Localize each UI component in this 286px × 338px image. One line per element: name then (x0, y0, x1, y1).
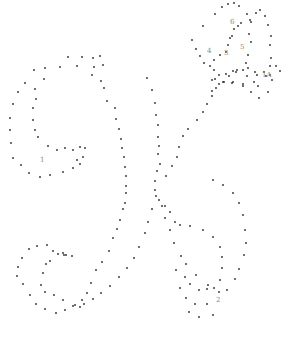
dot (222, 184, 224, 186)
dot (206, 103, 208, 105)
dot (258, 97, 260, 99)
dot (108, 250, 110, 252)
dot (225, 73, 227, 75)
dot (243, 254, 245, 256)
dot (9, 117, 11, 119)
dot (198, 289, 200, 291)
dot (196, 119, 198, 121)
dot (157, 136, 159, 138)
dot (227, 44, 229, 46)
dot (221, 6, 223, 8)
dot (81, 56, 83, 58)
dot (165, 175, 167, 177)
dot (106, 100, 108, 102)
dot (52, 250, 54, 252)
dot (207, 284, 209, 286)
dot (203, 62, 205, 64)
dot (22, 283, 24, 285)
dot (35, 98, 37, 100)
dot (100, 292, 102, 294)
dot (100, 80, 102, 82)
number-labels: 1234561A (40, 18, 272, 304)
dot (120, 138, 122, 140)
dot (71, 255, 73, 257)
dot (118, 276, 120, 278)
dot (62, 171, 64, 173)
dot (206, 288, 208, 290)
dot (114, 107, 116, 109)
dot (83, 303, 85, 305)
dot (33, 69, 35, 71)
dot (250, 91, 252, 93)
dot (84, 147, 86, 149)
dot (86, 292, 88, 294)
dot (182, 135, 184, 137)
dot (185, 297, 187, 299)
dot (173, 242, 175, 244)
dot (169, 211, 171, 213)
dot (115, 118, 117, 120)
dot (238, 268, 240, 270)
dot (242, 69, 244, 71)
dot (55, 312, 57, 314)
dot (215, 87, 217, 89)
dot (82, 156, 84, 158)
dot (218, 83, 220, 85)
dot (42, 272, 44, 274)
number-label: 3 (224, 49, 228, 57)
dot (214, 78, 216, 80)
dot (180, 255, 182, 257)
dot (118, 128, 120, 130)
dot (250, 21, 252, 23)
dot (219, 246, 221, 248)
dot (229, 37, 231, 39)
dot (198, 316, 200, 318)
dot (169, 229, 171, 231)
number-label: 1 (40, 156, 44, 164)
dot (195, 274, 197, 276)
dot (81, 299, 83, 301)
dot (40, 284, 42, 286)
dot (93, 66, 95, 68)
dot (62, 299, 64, 301)
dot (101, 261, 103, 263)
dot (248, 33, 250, 35)
dot (189, 225, 191, 227)
dot (191, 39, 193, 41)
dot (244, 229, 246, 231)
dot (59, 66, 61, 68)
dot (151, 89, 153, 91)
dot (16, 275, 18, 277)
dot (155, 114, 157, 116)
number-label: 1A (262, 71, 272, 79)
dot (157, 153, 159, 155)
dot (222, 81, 224, 83)
dot (64, 309, 66, 311)
dot (32, 119, 34, 121)
dot (44, 291, 46, 293)
dot (49, 260, 51, 262)
number-label: 2 (216, 296, 220, 304)
dot (161, 205, 163, 207)
dot (237, 25, 239, 27)
dot (270, 35, 272, 37)
dot (218, 291, 220, 293)
dot (279, 70, 281, 72)
dot (188, 311, 190, 313)
dot (154, 102, 156, 104)
dot (24, 82, 26, 84)
dot (116, 228, 118, 230)
dot (92, 57, 94, 59)
dot (245, 62, 247, 64)
dot (264, 15, 266, 17)
dot (37, 136, 39, 138)
dot (147, 221, 149, 223)
dot (234, 278, 236, 280)
dot (36, 245, 38, 247)
dot (195, 48, 197, 50)
dot (269, 65, 271, 67)
dot (79, 146, 81, 148)
dot (44, 308, 46, 310)
dot (221, 267, 223, 269)
dot (246, 13, 248, 15)
